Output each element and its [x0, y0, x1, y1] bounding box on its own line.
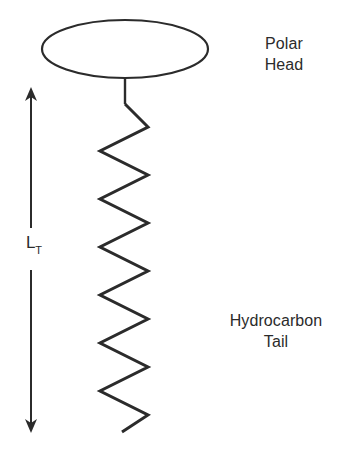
tail-length-subscript: T	[35, 244, 42, 256]
tail-length-symbol: L	[26, 233, 35, 252]
hydrocarbon-tail-label: Hydrocarbon Tail	[206, 310, 346, 352]
tail-length-label: LT	[12, 233, 56, 258]
polar-head-ellipse	[42, 20, 208, 78]
polar-head-label-line-1: Polar	[228, 33, 340, 54]
hydrocarbon-tail-zigzag	[100, 104, 148, 432]
polar-head-label: Polar Head	[228, 33, 340, 75]
hydrocarbon-tail-label-line-2: Tail	[206, 331, 346, 352]
hydrocarbon-tail-label-line-1: Hydrocarbon	[206, 310, 346, 331]
polar-head-label-line-2: Head	[228, 54, 340, 75]
